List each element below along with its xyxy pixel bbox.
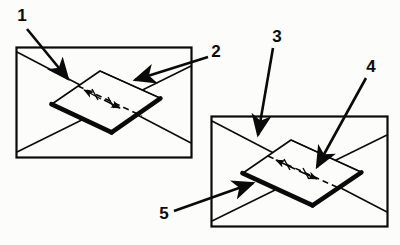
diagram-canvas: 1 2 3 4 5 — [0, 0, 400, 245]
technical-diagram: 1 2 3 4 5 — [0, 0, 400, 245]
callout-arrow-1 — [27, 29, 68, 79]
callout-label-1: 1 — [17, 6, 26, 25]
callout-arrow-4 — [317, 78, 366, 167]
right-view — [212, 117, 388, 227]
callout-arrow-2 — [135, 57, 208, 80]
callout-label-5: 5 — [159, 204, 168, 223]
left-view — [17, 48, 192, 158]
callout-label-3: 3 — [272, 27, 281, 46]
callout-label-4: 4 — [366, 57, 376, 76]
callout-label-2: 2 — [211, 42, 220, 61]
callout-arrow-3 — [258, 48, 273, 135]
